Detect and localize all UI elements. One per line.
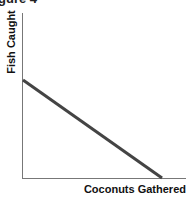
chart-plot (0, 0, 190, 197)
y-axis-label: Fish Caught (5, 10, 17, 74)
x-axis-label: Coconuts Gathered (84, 183, 186, 195)
ppf-line (23, 80, 162, 178)
